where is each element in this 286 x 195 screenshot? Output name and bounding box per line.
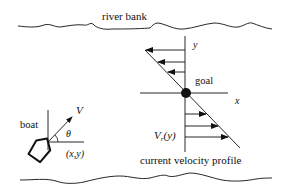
theta-arc xyxy=(55,135,58,142)
current-profile-caption: current velocity profile xyxy=(140,154,242,166)
current-arrows-upper xyxy=(146,50,185,72)
velocity-label: V xyxy=(76,104,84,116)
theta-label: θ xyxy=(66,128,71,139)
goal-label: goal xyxy=(195,75,213,86)
position-label: (x,y) xyxy=(66,148,85,160)
river-bank-top xyxy=(18,23,272,29)
boat-icon xyxy=(26,138,51,163)
diagram-canvas: river bank y x goal Vr(y) current veloci… xyxy=(0,0,286,195)
y-axis-label: y xyxy=(192,39,198,50)
river-bank-label: river bank xyxy=(102,10,147,22)
current-profile-symbol: Vr(y) xyxy=(154,129,176,143)
boat-label: boat xyxy=(20,119,38,130)
goal-dot-icon xyxy=(181,88,191,98)
current-arrows-lower xyxy=(185,114,228,137)
river-bank-bottom xyxy=(20,173,272,183)
x-axis-label: x xyxy=(234,95,240,106)
